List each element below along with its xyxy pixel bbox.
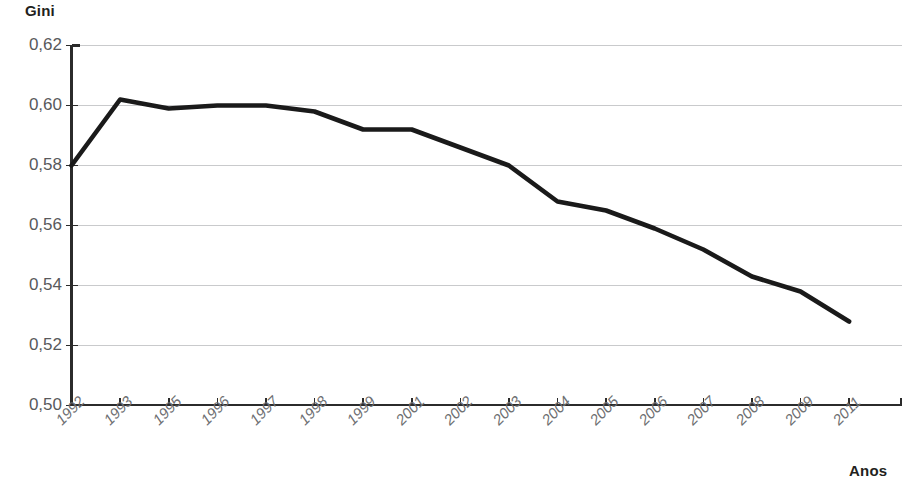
y-tick-label: 0,58	[8, 155, 62, 175]
data-series-gini	[72, 100, 850, 322]
gini-line-chart: Gini Anos 0,620,600,580,560,540,520,50 1…	[0, 0, 917, 493]
y-tick-label: 0,52	[8, 335, 62, 355]
gridlines	[72, 46, 903, 406]
y-tick-label: 0,56	[8, 215, 62, 235]
y-tick-label: 0,60	[8, 95, 62, 115]
y-tick-label: 0,50	[8, 395, 62, 415]
y-tick-label: 0,54	[8, 275, 62, 295]
y-tick-label: 0,62	[8, 35, 62, 55]
